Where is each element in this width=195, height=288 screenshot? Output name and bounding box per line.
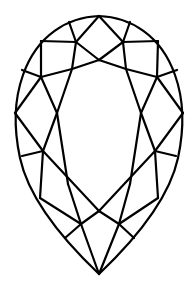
facet-line bbox=[76, 42, 99, 60]
facet-line bbox=[119, 224, 134, 238]
facet-line bbox=[41, 77, 57, 113]
facet-line bbox=[65, 224, 81, 238]
facet-line bbox=[99, 211, 119, 224]
facet-line bbox=[43, 113, 57, 151]
facet-line bbox=[99, 224, 119, 274]
facet-line bbox=[141, 77, 157, 113]
facet-line bbox=[69, 22, 76, 42]
facet-line bbox=[22, 151, 43, 156]
facet-line bbox=[81, 211, 99, 224]
facet-line bbox=[155, 113, 183, 151]
facet-line bbox=[43, 151, 99, 211]
pear-diamond-diagram bbox=[0, 0, 195, 288]
facet-line bbox=[22, 70, 41, 77]
facet-line bbox=[123, 22, 130, 42]
facet-line bbox=[126, 69, 157, 77]
facet-line bbox=[155, 151, 176, 156]
diagram-canvas: Pear-shaped diamond facet diagram bbox=[0, 0, 195, 288]
facet-line bbox=[15, 113, 43, 151]
facet-line bbox=[41, 41, 76, 42]
facet-line bbox=[155, 151, 158, 198]
facet-line bbox=[99, 151, 155, 211]
facet-line bbox=[157, 41, 158, 77]
facet-line bbox=[99, 60, 126, 69]
facet-line bbox=[141, 113, 155, 151]
facet-line bbox=[157, 77, 183, 113]
facet-line bbox=[72, 42, 76, 69]
facet-line bbox=[72, 60, 99, 69]
facet-line bbox=[40, 151, 43, 198]
facet-line bbox=[57, 69, 72, 113]
facet-line bbox=[99, 42, 123, 60]
facet-line bbox=[123, 41, 158, 42]
facet-line bbox=[123, 42, 126, 69]
facet-line bbox=[41, 69, 72, 77]
facet-line bbox=[126, 69, 141, 113]
facet-line bbox=[15, 77, 41, 113]
facet-lines bbox=[15, 16, 183, 274]
